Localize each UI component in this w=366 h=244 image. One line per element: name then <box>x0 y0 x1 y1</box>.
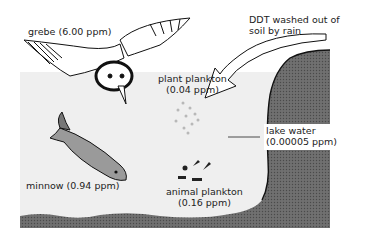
ddt-label: DDT washed out of soil by rain <box>249 14 340 36</box>
lake-water-label: lake water (0.00005 ppm) <box>266 125 337 147</box>
lake-water-line2: (0.00005 ppm) <box>266 136 337 147</box>
animal-plankton-label: animal plankton (0.16 ppm) <box>166 186 243 208</box>
ddt-label-line2: soil by rain <box>249 25 340 36</box>
plant-plankton-label: plant plankton (0.04 ppm) <box>158 73 227 95</box>
minnow-label: minnow (0.94 ppm) <box>26 180 119 191</box>
ddt-label-line1: DDT washed out of <box>249 14 340 25</box>
plant-plankton-line2: (0.04 ppm) <box>158 84 227 95</box>
lake-water-line1: lake water <box>266 125 337 136</box>
animal-plankton-line2: (0.16 ppm) <box>166 197 243 208</box>
grebe-label: grebe (6.00 ppm) <box>28 26 111 37</box>
plant-plankton-line1: plant plankton <box>158 73 227 84</box>
animal-plankton-line1: animal plankton <box>166 186 243 197</box>
